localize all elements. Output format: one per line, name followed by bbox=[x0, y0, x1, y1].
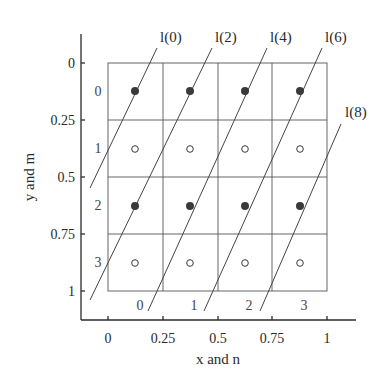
filled-dot bbox=[186, 87, 194, 95]
open-dot bbox=[132, 260, 139, 267]
y-tick-labels: 0 0.25 0.5 0.75 1 bbox=[51, 56, 76, 299]
line-label: l(4) bbox=[270, 29, 292, 46]
open-dot bbox=[297, 260, 304, 267]
col-indices: 0 1 2 3 bbox=[137, 298, 308, 313]
y-axis-title: y and m bbox=[21, 153, 37, 202]
y-tick-label: 0.25 bbox=[51, 113, 76, 128]
filled-dot bbox=[296, 87, 304, 95]
y-tick-label: 0 bbox=[68, 56, 75, 71]
line-labels: l(0) l(2) l(4) l(6) l(8) bbox=[160, 29, 367, 121]
col-index: 1 bbox=[191, 298, 198, 313]
y-tick-label: 0.75 bbox=[51, 227, 76, 242]
row-index: 1 bbox=[95, 141, 102, 156]
cell-grid bbox=[108, 63, 327, 291]
filled-dot bbox=[131, 202, 139, 210]
filled-dot bbox=[186, 202, 194, 210]
open-dot bbox=[187, 260, 194, 267]
filled-dot bbox=[131, 87, 139, 95]
y-tick-label: 0.5 bbox=[58, 170, 76, 185]
line-label: l(6) bbox=[325, 29, 347, 46]
row-index: 3 bbox=[95, 255, 102, 270]
open-dot bbox=[297, 146, 304, 153]
y-tick-label: 1 bbox=[68, 284, 75, 299]
line-label: l(0) bbox=[160, 29, 182, 46]
open-dot bbox=[132, 146, 139, 153]
row-index: 2 bbox=[95, 198, 102, 213]
col-index: 2 bbox=[246, 298, 253, 313]
open-dot bbox=[242, 146, 249, 153]
line-l6 bbox=[204, 48, 322, 311]
line-l4 bbox=[148, 48, 267, 311]
lattice-diagram: 0 0.25 0.5 0.75 1 0 0.25 0.5 0.75 1 x an… bbox=[0, 0, 389, 386]
x-tick-label: 0.75 bbox=[260, 331, 285, 346]
open-dot bbox=[242, 260, 249, 267]
line-label: l(8) bbox=[345, 104, 367, 121]
filled-dot bbox=[241, 87, 249, 95]
x-tick-label: 0.5 bbox=[209, 331, 227, 346]
filled-dot bbox=[241, 202, 249, 210]
x-tick-label: 0.25 bbox=[151, 331, 176, 346]
row-index: 0 bbox=[95, 84, 102, 99]
col-index: 0 bbox=[137, 298, 144, 313]
filled-dot bbox=[296, 202, 304, 210]
lattice-lines bbox=[90, 48, 341, 311]
open-dot bbox=[187, 146, 194, 153]
col-index: 3 bbox=[301, 298, 308, 313]
x-tick-label: 1 bbox=[324, 331, 331, 346]
x-axis-title: x and n bbox=[196, 351, 241, 367]
x-tick-label: 0 bbox=[105, 331, 112, 346]
x-tick-labels: 0 0.25 0.5 0.75 1 bbox=[105, 331, 331, 346]
line-l0 bbox=[90, 48, 157, 188]
line-label: l(2) bbox=[215, 29, 237, 46]
